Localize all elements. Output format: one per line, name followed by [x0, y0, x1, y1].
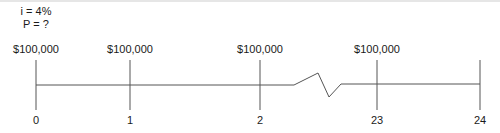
- period-label-1: 1: [127, 114, 133, 126]
- cash-flow-amount-23: $100,000: [354, 43, 400, 55]
- cash-flow-amount-1: $100,000: [107, 43, 153, 55]
- cash-flow-amount-2: $100,000: [237, 43, 283, 55]
- period-label-24: 24: [474, 114, 486, 126]
- period-label-0: 0: [33, 114, 39, 126]
- cash-flow-amount-0: $100,000: [13, 43, 59, 55]
- period-label-2: 2: [257, 114, 263, 126]
- period-label-23: 23: [371, 114, 383, 126]
- axis-break-icon: [294, 73, 341, 97]
- timeline-graphic: [0, 0, 500, 133]
